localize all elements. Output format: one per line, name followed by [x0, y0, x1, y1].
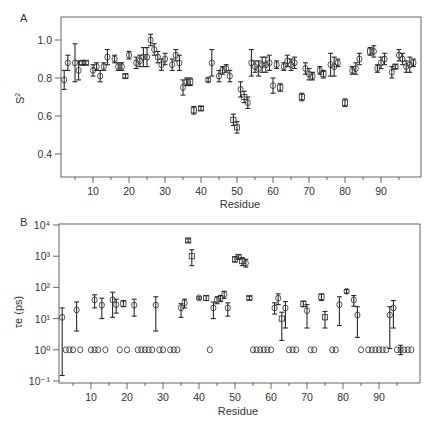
- data-point: [204, 295, 209, 300]
- data-point: [62, 70, 67, 89]
- data-point: [98, 70, 103, 81]
- panel-b-data-series: [60, 238, 414, 376]
- data-point: [270, 78, 275, 93]
- x-tick-label: 70: [301, 391, 313, 403]
- y-tick-label: 10⁰: [34, 344, 51, 356]
- circle-marker: [358, 347, 363, 353]
- panel-b-ylabel: τe (ps): [12, 296, 24, 328]
- baseline-point: [409, 347, 414, 353]
- baseline-point: [175, 347, 180, 353]
- data-point: [126, 51, 131, 59]
- data-point: [188, 78, 193, 86]
- circle-marker: [207, 347, 212, 353]
- y-tick-label: 0.6: [37, 110, 52, 122]
- data-point: [65, 55, 70, 70]
- data-point: [153, 297, 158, 331]
- data-point: [112, 55, 117, 63]
- x-tick-label: 40: [195, 185, 207, 197]
- data-point: [225, 303, 230, 316]
- baseline-point: [358, 347, 363, 353]
- data-point: [222, 291, 227, 298]
- x-tick-label: 50: [231, 185, 243, 197]
- circle-marker: [268, 347, 273, 353]
- data-point: [351, 296, 356, 307]
- data-point: [260, 57, 265, 72]
- data-point: [216, 70, 221, 81]
- baseline-point: [117, 347, 122, 353]
- data-point: [206, 77, 211, 83]
- y-tick-label: 10⁻¹: [29, 375, 51, 387]
- panel-a-y-axis: 0.40.60.81.0: [37, 34, 61, 160]
- data-point: [337, 297, 342, 326]
- data-point: [83, 60, 88, 65]
- circle-marker: [103, 347, 108, 353]
- x-tick-label: 70: [303, 185, 315, 197]
- data-point: [196, 295, 201, 301]
- y-tick-label: 0.4: [37, 148, 52, 160]
- data-point: [278, 84, 283, 92]
- data-point: [114, 299, 119, 313]
- x-tick-label: 60: [267, 185, 279, 197]
- x-tick-label: 30: [159, 185, 171, 197]
- x-tick-label: 80: [339, 185, 351, 197]
- data-point: [391, 301, 396, 328]
- x-tick-label: 60: [265, 391, 277, 403]
- baseline-point: [268, 347, 273, 353]
- data-point: [119, 63, 124, 71]
- data-point: [283, 302, 288, 328]
- data-point: [243, 259, 248, 267]
- data-point: [382, 53, 387, 64]
- data-point: [198, 106, 203, 111]
- circle-marker: [312, 347, 317, 353]
- baseline-point: [78, 347, 83, 353]
- circle-marker: [96, 347, 101, 353]
- baseline-point: [160, 347, 165, 353]
- data-point: [335, 59, 340, 67]
- data-point: [74, 302, 79, 331]
- y-tick-label: 10²: [35, 281, 51, 293]
- panel-a-x-axis: 102030405060708090: [75, 177, 399, 197]
- panel-a-ylabel: S2: [14, 93, 26, 104]
- baseline-point: [103, 347, 108, 353]
- data-point: [144, 48, 149, 67]
- baseline-point: [312, 347, 317, 353]
- x-tick-label: 80: [337, 391, 349, 403]
- baseline-point: [124, 347, 129, 353]
- data-point: [304, 305, 309, 328]
- data-point: [247, 295, 252, 300]
- x-tick-label: 50: [229, 391, 241, 403]
- data-point: [301, 301, 306, 307]
- circle-marker: [124, 347, 129, 353]
- data-point: [209, 50, 214, 77]
- x-tick-label: 90: [373, 391, 385, 403]
- circle-marker: [175, 347, 180, 353]
- data-point: [231, 114, 236, 125]
- x-tick-label: 10: [85, 391, 97, 403]
- data-point: [99, 298, 104, 318]
- data-point: [396, 50, 401, 61]
- y-tick-label: 10³: [35, 250, 51, 262]
- data-point: [378, 57, 383, 68]
- baseline-point: [70, 347, 75, 353]
- figure: A 0.40.60.81.0 102030405060708090 S2 Res…: [0, 0, 434, 429]
- panel-b-y-axis: 10⁻¹10⁰10¹10²10³10⁴: [29, 219, 59, 387]
- circle-marker: [160, 347, 165, 353]
- baseline-point: [294, 347, 299, 353]
- data-point: [121, 301, 126, 307]
- data-point: [191, 107, 196, 115]
- data-point: [355, 307, 360, 338]
- y-tick-label: 10⁴: [34, 219, 50, 231]
- baseline-point: [150, 347, 155, 353]
- panel-b: B 10⁻¹10⁰10¹10²10³10⁴ 102030405060708090…: [12, 216, 420, 417]
- data-point: [76, 61, 81, 80]
- data-point: [132, 299, 137, 316]
- baseline-point: [207, 347, 212, 353]
- data-point: [189, 250, 194, 266]
- data-point: [72, 44, 77, 82]
- baseline-point: [96, 347, 101, 353]
- y-tick-label: 0.8: [37, 72, 52, 84]
- data-point: [155, 51, 160, 62]
- x-tick-label: 30: [157, 391, 169, 403]
- circle-marker: [150, 347, 155, 353]
- panel-b-x-axis: 102030405060708090: [73, 383, 397, 403]
